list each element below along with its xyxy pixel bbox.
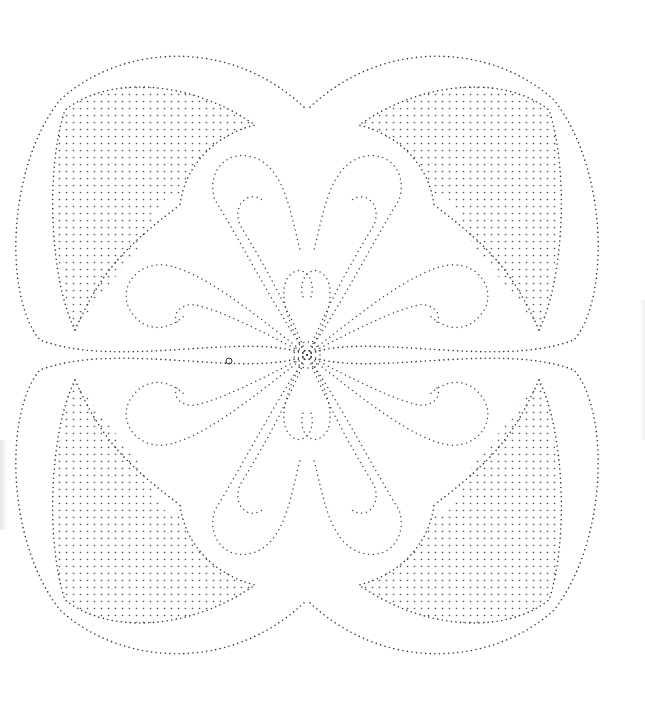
pattern-lobe-bottom-right bbox=[302, 355, 598, 654]
quilt-pattern bbox=[0, 0, 645, 724]
small-circle-marker bbox=[226, 358, 232, 364]
pattern-lobe-bottom-left bbox=[16, 355, 312, 654]
pattern-lobe-top-left bbox=[16, 56, 312, 355]
pattern-lobe-top-right bbox=[302, 56, 598, 355]
